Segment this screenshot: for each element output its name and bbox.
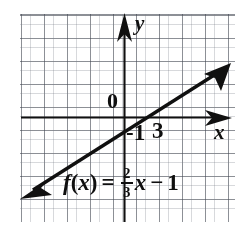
- fraction-numerator: 2: [122, 166, 132, 181]
- y-intercept-label: -1: [126, 121, 145, 144]
- origin-label: 0: [107, 90, 118, 112]
- equation-argument: x: [78, 170, 90, 196]
- equation-function-name: f: [63, 170, 71, 196]
- equation-equals-sign: =: [102, 170, 115, 196]
- equation-paren-close: ): [90, 170, 98, 196]
- x-axis-label: x: [214, 122, 225, 143]
- x-intercept-label: 3: [152, 119, 164, 142]
- fraction-denominator: 3: [122, 185, 132, 200]
- figure-canvas: y x 0 -1 3 f(x) = 2 3 x − 1: [0, 0, 241, 232]
- equation-minus-sign: −: [150, 170, 163, 196]
- equation-variable: x: [135, 170, 147, 196]
- y-axis-label: y: [135, 13, 144, 34]
- equation-constant: 1: [167, 170, 179, 196]
- function-equation-label: f(x) = 2 3 x − 1: [63, 166, 179, 200]
- equation-fraction: 2 3: [121, 166, 133, 200]
